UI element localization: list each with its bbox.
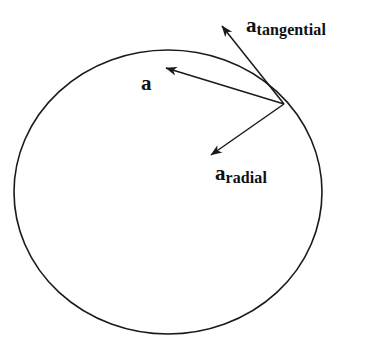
label-a-tangential-base: a (246, 13, 257, 37)
label-a-radial-subscript: radial (226, 169, 268, 186)
label-a-radial: aradial (215, 163, 267, 184)
label-a-total: a (141, 73, 152, 94)
label-a-radial-base: a (215, 161, 226, 185)
vector-a-total-shaft (166, 68, 284, 104)
diagram-canvas (0, 0, 367, 351)
label-a-tangential: atangential (246, 15, 326, 36)
label-a-total-base: a (141, 71, 152, 95)
label-a-tangential-subscript: tangential (257, 21, 326, 38)
acceleration-diagram: a atangential aradial (0, 0, 367, 351)
vector-a-radial-shaft (211, 104, 284, 155)
